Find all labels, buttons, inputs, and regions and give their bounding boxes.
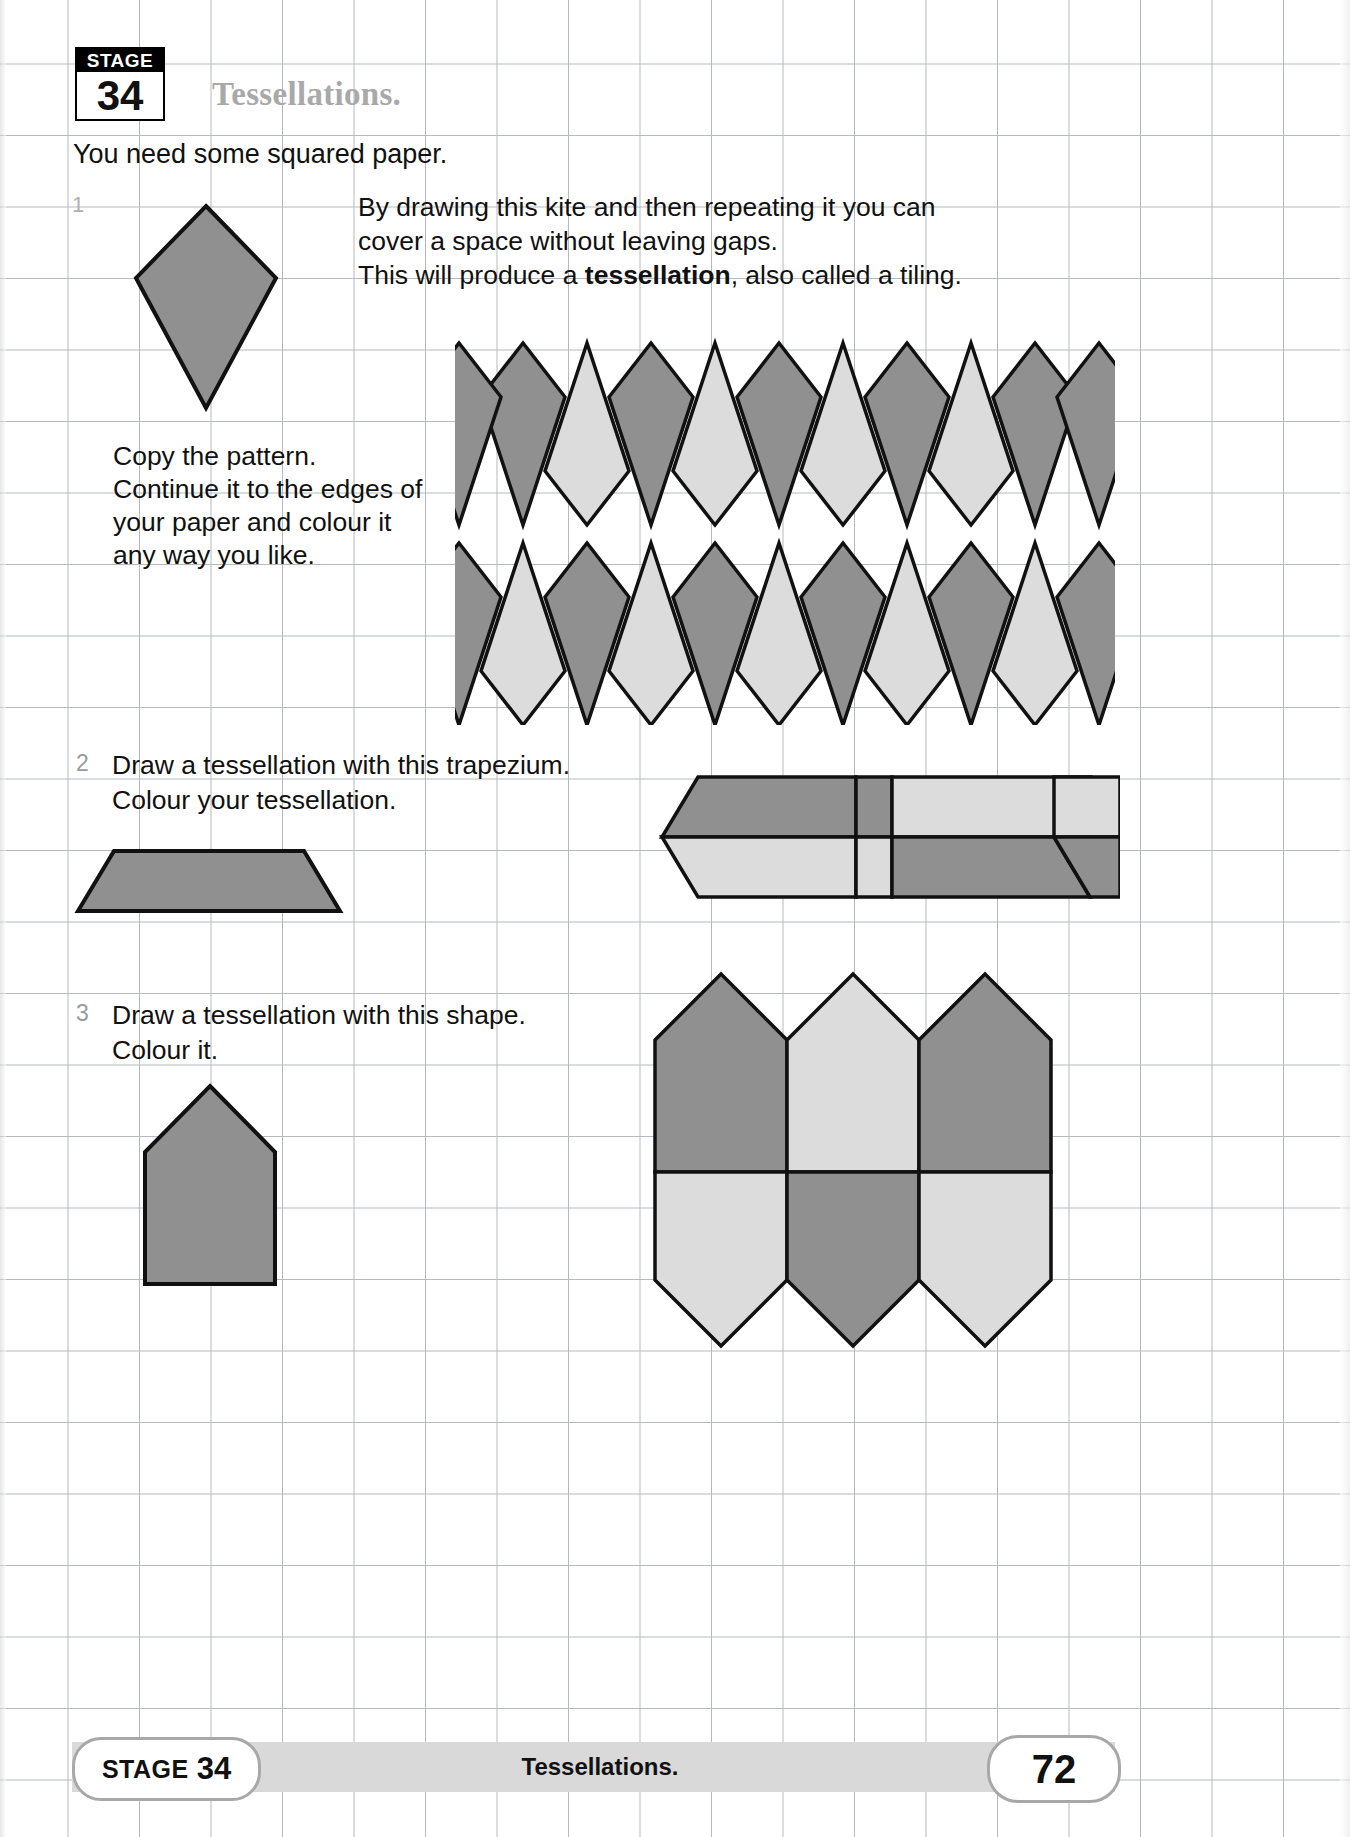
footer-stage-pill: STAGE 34 <box>72 1737 261 1801</box>
kite-tessellation-figure <box>455 325 1115 725</box>
footer-page-pill: 72 <box>987 1735 1121 1803</box>
footer-stage-word: STAGE <box>102 1755 189 1784</box>
q1-line-3-post: , also called a tiling. <box>731 260 962 290</box>
stage-badge-number: 34 <box>77 72 163 119</box>
q1-line-3-pre: This will produce a <box>358 260 585 290</box>
pentagon-shape-example <box>135 1080 285 1290</box>
footer-title: Tessellations. <box>450 1753 750 1781</box>
question-1-paragraph: By drawing this kite and then repeating … <box>358 190 962 292</box>
intro-line: You need some squared paper. <box>73 138 447 171</box>
pentagon-tessellation-figure <box>645 960 1065 1360</box>
footer-page-number: 72 <box>1032 1747 1077 1792</box>
worksheet-page: STAGE 34 Tessellations. You need some sq… <box>0 0 1350 1837</box>
copy-pattern-instructions: Copy the pattern. Continue it to the edg… <box>113 440 422 572</box>
kite-shape-example <box>130 200 290 415</box>
stage-badge: STAGE 34 <box>75 47 165 121</box>
q1-line-1: By drawing this kite and then repeating … <box>358 192 935 222</box>
page-content: STAGE 34 Tessellations. You need some sq… <box>0 0 1350 1837</box>
footer-stage-number: 34 <box>197 1751 231 1787</box>
item-number-3: 3 <box>76 1000 89 1027</box>
q1-line-2: cover a space without leaving gaps. <box>358 226 778 256</box>
stage-badge-word: STAGE <box>77 49 163 72</box>
item-number-1: 1 <box>72 192 84 218</box>
question-3-text: Draw a tessellation with this shape. Col… <box>112 998 526 1068</box>
trapezium-shape-example <box>72 845 352 925</box>
trapezium-tessellation-figure <box>650 765 1120 925</box>
item-number-2: 2 <box>76 750 89 777</box>
question-2-text: Draw a tessellation with this trapezium.… <box>112 748 570 818</box>
page-title: Tessellations. <box>212 76 401 113</box>
q1-term-tessellation: tessellation <box>585 260 731 290</box>
